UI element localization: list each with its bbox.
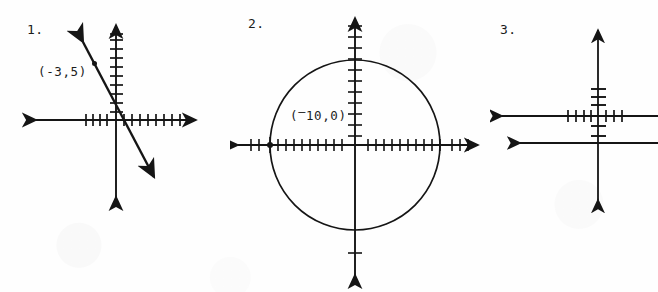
problem-1-marked-point (92, 61, 97, 66)
problem-2-graph (230, 0, 490, 292)
problem-1-number: 1. (27, 22, 44, 37)
problem-2-point-label: (–10,0) (290, 108, 347, 123)
point-label-value: 10,0) (306, 108, 347, 123)
point-label-negative-sign: – (298, 105, 306, 119)
problem-3-number: 3. (500, 22, 517, 37)
problem-3-graph (490, 0, 658, 292)
problem-1-point-label: (-3,5) (38, 64, 87, 79)
problem-2-panel: 2. (–10,0) (230, 0, 490, 292)
problem-1-graph (0, 0, 230, 292)
problem-3-panel: 3. (490, 0, 658, 292)
point-label-open-paren: ( (290, 108, 298, 123)
problem-2-marked-point (267, 142, 273, 148)
worksheet-page: 1. (-3,5) (0, 0, 658, 292)
problem-1-panel: 1. (-3,5) (0, 0, 230, 292)
problem-2-number: 2. (248, 16, 265, 31)
